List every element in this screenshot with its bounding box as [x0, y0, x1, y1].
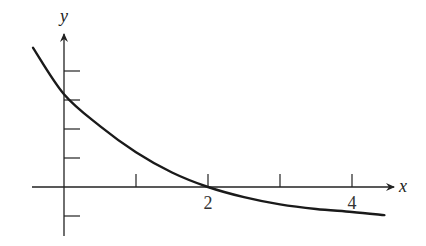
x-tick-label: 4 — [348, 193, 357, 213]
x-tick-label: 2 — [204, 193, 213, 213]
x-axis-label: x — [398, 176, 407, 196]
data-curve — [33, 48, 384, 215]
x-ticks — [136, 174, 352, 187]
chart: 24 x y — [0, 0, 426, 246]
y-axis-label: y — [58, 6, 68, 26]
y-ticks — [64, 71, 80, 216]
